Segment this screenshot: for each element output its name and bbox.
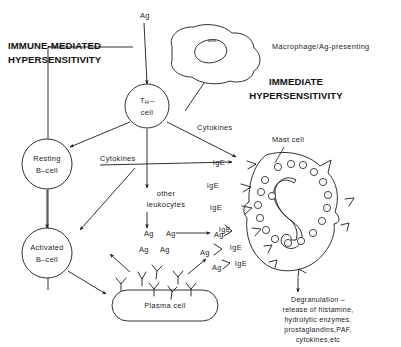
svg-text:Activated: Activated [30, 243, 64, 252]
mast-cell-label: Mast cell [272, 135, 304, 144]
svg-text:IMMUNE-MEDIATED: IMMUNE-MEDIATED [8, 40, 101, 51]
degranulation-text: Degranulation – release of histamine, hy… [283, 296, 354, 344]
mast-cell-granule [319, 178, 326, 185]
svg-text:release of histamine,: release of histamine, [283, 306, 354, 313]
diagram-canvas: Ag Macrophage/Ag-presenting IMMEDIATE HY… [0, 0, 401, 347]
mast-cell-granule [287, 160, 294, 167]
mast-cell-granule [274, 163, 281, 170]
svg-text:Resting: Resting [33, 154, 61, 163]
th-to-resting-b-arrow [70, 122, 130, 147]
bound-antigen-label: Ag [214, 230, 224, 239]
other-leukocytes-label: other leukocytes [147, 189, 185, 209]
free-antibody-y-shape [152, 265, 162, 279]
mast-cell-granule [257, 188, 264, 195]
mast-cell-granule [324, 191, 331, 198]
immediate-hypersensitivity-heading: IMMEDIATE HYPERSENSITIVITY [249, 76, 343, 101]
antigen-top-label: Ag [140, 11, 150, 20]
antigen-label: Ag [144, 229, 154, 238]
mast-cell [244, 152, 339, 270]
activated-b-cell: Activated B–cell [22, 228, 72, 278]
svg-text:B–cell: B–cell [36, 166, 58, 175]
macrophage-label: Macrophage/Ag-presenting [272, 42, 370, 51]
th-cell: TH– cell [125, 84, 169, 128]
ige-label: IgE [230, 243, 242, 252]
svg-text:prostaglandins,PAF,: prostaglandins,PAF, [284, 326, 351, 334]
mast-cell-granule [256, 214, 263, 221]
svg-text:B–cell: B–cell [36, 255, 58, 264]
cytokines-left-label: Cytokines [100, 154, 136, 163]
cytokines-right-label: Cytokines [197, 123, 233, 132]
antigen-label: Ag [139, 245, 149, 254]
ige-label: IgE [207, 181, 219, 190]
hypersensitivity-diagram: Ag Macrophage/Ag-presenting IMMEDIATE HY… [0, 0, 401, 347]
svg-text:cytokines,etc: cytokines,etc [296, 336, 341, 344]
antigen-cluster: AgAgAgAg [139, 229, 176, 254]
antibody-to-antigen-arrow [110, 254, 130, 272]
svg-text:other: other [157, 189, 176, 198]
mast-cell-granule [271, 235, 278, 242]
antigen-label: Ag [166, 229, 176, 238]
mast-cell-granule [254, 201, 261, 208]
resting-b-cell: Resting B–cell [22, 139, 72, 189]
ige-label: IgE [235, 259, 247, 268]
free-antibody-y-shape [138, 272, 146, 286]
free-antibody-y-shape [173, 271, 183, 284]
bound-antigen-labels: AgAgAg [200, 230, 224, 272]
free-antibody-y-shape [116, 278, 126, 291]
macrophage-to-th-line [185, 83, 204, 111]
immune-mediated-hypersensitivity-heading: IMMUNE-MEDIATED HYPERSENSITIVITY [8, 40, 102, 65]
antigen-label: Ag [160, 245, 170, 254]
mast-cell-granule [299, 161, 306, 168]
activated-b-to-plasma-arrow [68, 271, 106, 294]
mast-cell-granule [262, 226, 269, 233]
macrophage-cell [171, 25, 260, 84]
mast-cell-granule [297, 237, 304, 244]
svg-text:HYPERSENSITIVITY: HYPERSENSITIVITY [8, 54, 102, 65]
mast-cell-granule [310, 168, 317, 175]
bound-antigen-label: Ag [200, 248, 210, 257]
cytokines-to-activated-b-arrow [80, 168, 135, 230]
svg-text:cell: cell [141, 108, 154, 117]
ige-labels: IgEIgEIgEIgEIgEIgE [207, 158, 247, 268]
mast-cell-granule [309, 229, 316, 236]
svg-text:IMMEDIATE: IMMEDIATE [269, 76, 324, 87]
svg-text:leukocytes: leukocytes [147, 200, 185, 209]
svg-text:HYPERSENSITIVITY: HYPERSENSITIVITY [249, 90, 343, 101]
mast-cell-granule [268, 192, 275, 199]
mast-cell-granule [323, 204, 330, 211]
svg-text:hydrolytic enzymes,: hydrolytic enzymes, [284, 316, 351, 324]
svg-text:Plasma cell: Plasma cell [144, 301, 186, 310]
mast-cell-granule [318, 217, 325, 224]
svg-text:Degranulation –: Degranulation – [291, 296, 345, 304]
bound-antigen-label: Ag [212, 263, 222, 272]
ige-label: IgE [213, 158, 225, 167]
ige-label: IgE [210, 203, 222, 212]
mast-cell-granule [261, 176, 268, 183]
plasma-cell: Plasma cell [112, 290, 218, 321]
antibody-to-ige-arrow [188, 259, 206, 274]
mast-cell-granule [284, 239, 291, 246]
antigen-to-th-arrow [144, 23, 147, 84]
